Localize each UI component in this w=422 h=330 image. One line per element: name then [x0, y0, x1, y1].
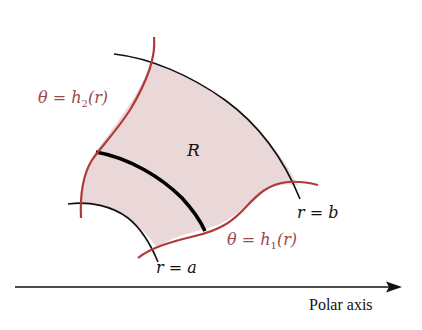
label-theta-h1: θ = h1(r) — [227, 230, 297, 251]
label-theta-h1-prefix: θ = h — [227, 230, 271, 249]
label-region-r: R — [187, 140, 200, 160]
label-theta-h2-suffix: (r) — [88, 88, 108, 107]
label-theta-h2-prefix: θ = h — [38, 88, 82, 107]
label-polar-axis: Polar axis — [309, 296, 373, 314]
label-r-equals-a: r = a — [156, 258, 197, 277]
label-r-equals-b: r = b — [297, 203, 338, 222]
label-theta-h1-suffix: (r) — [277, 230, 297, 249]
polar-region-diagram — [0, 0, 422, 330]
label-theta-h2: θ = h2(r) — [38, 88, 108, 109]
